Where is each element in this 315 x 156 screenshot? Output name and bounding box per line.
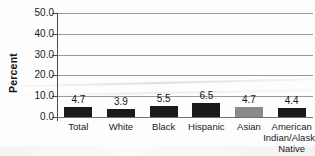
y-axis-tick-mark <box>52 75 57 76</box>
bar <box>150 106 178 117</box>
x-axis-category-label-line: Black <box>152 121 175 132</box>
y-axis-tick-label: 40.0 <box>20 29 54 39</box>
x-axis-category-label-line: White <box>109 121 133 132</box>
bar-value-label: 3.9 <box>114 96 128 107</box>
bar <box>192 103 220 117</box>
y-axis-tick-label: 0.0 <box>20 112 54 122</box>
bar-group: 4.7Total <box>57 0 100 156</box>
x-axis-category-label: AmericanIndian/AlaskaNative <box>263 121 315 154</box>
x-axis-category-label-line: Total <box>68 121 88 132</box>
x-axis-category-label: Hispanic <box>188 121 224 132</box>
y-axis-tick-mark <box>52 96 57 97</box>
bar-value-label: 4.7 <box>71 94 85 105</box>
x-axis-category-label-line: Indian/Alaska <box>263 132 315 143</box>
bar <box>64 107 92 117</box>
bar-group: 6.5Hispanic <box>185 0 228 156</box>
bar-chart: Percent 50.040.030.020.010.00.0 4.7Total… <box>0 0 315 156</box>
bar-group: 3.9White <box>100 0 143 156</box>
x-axis-category-label: Black <box>152 121 175 132</box>
y-axis-tick-labels: 50.040.030.020.010.00.0 <box>16 0 54 156</box>
y-axis-tick-mark <box>52 34 57 35</box>
x-axis-category-label: White <box>109 121 133 132</box>
bar-group: 5.5Black <box>142 0 185 156</box>
bar-series: 4.7Total3.9White5.5Black6.5Hispanic4.7As… <box>57 0 313 156</box>
y-axis-tick-label: 50.0 <box>20 8 54 18</box>
y-axis-tick-mark <box>52 13 57 14</box>
bar-value-label: 4.7 <box>242 94 256 105</box>
bar <box>107 109 135 117</box>
bar-value-label: 5.5 <box>157 93 171 104</box>
y-axis-tick-mark <box>52 117 57 118</box>
y-axis-tick-label: 10.0 <box>20 91 54 101</box>
x-axis-category-label-line: Native <box>263 143 315 154</box>
bar <box>235 107 263 117</box>
y-axis-tick-mark <box>52 55 57 56</box>
x-axis-category-label-line: Asian <box>237 121 261 132</box>
y-axis-tick-label: 30.0 <box>20 50 54 60</box>
bar <box>278 108 306 117</box>
x-axis-category-label: Total <box>68 121 88 132</box>
bar-value-label: 4.4 <box>285 95 299 106</box>
x-axis-category-label-line: American <box>263 121 315 132</box>
x-axis-category-label: Asian <box>237 121 261 132</box>
bar-group: 4.4AmericanIndian/AlaskaNative <box>270 0 313 156</box>
y-axis-tick-label: 20.0 <box>20 70 54 80</box>
x-axis-category-label-line: Hispanic <box>188 121 224 132</box>
bar-value-label: 6.5 <box>199 90 213 101</box>
